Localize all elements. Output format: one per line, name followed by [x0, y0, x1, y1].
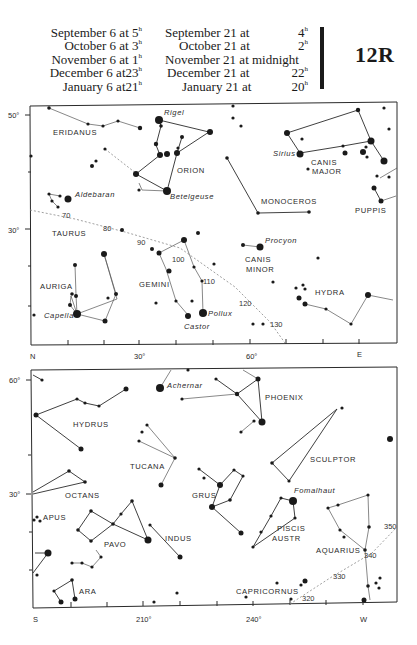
apus: APUS: [32, 513, 66, 523]
indus: INDUS: [148, 523, 191, 559]
ra-label-60: 60°: [246, 352, 257, 361]
dec-label-30: 30°: [8, 226, 19, 235]
south-label: S: [33, 615, 38, 624]
constellation-label: HYDRUS: [73, 420, 109, 429]
star-charts: 50° 30° N 30° 60° E 70 80 90 100 110 120…: [0, 0, 417, 645]
constellation-label: TAURUS: [52, 229, 86, 238]
ra-label-210: 210°: [136, 615, 152, 624]
star-label-pollux: Pollux: [208, 309, 233, 318]
ra-label-30: 30°: [134, 352, 145, 361]
north-label: N: [30, 352, 35, 361]
canis-major: Sirius CANIS MAJOR: [273, 106, 391, 176]
ecliptic-mark: 330: [333, 572, 346, 581]
constellation-label: AUSTR: [272, 534, 301, 543]
star-label-betelgeuse: Betelgeuse: [170, 192, 214, 201]
ecliptic-mark: 110: [203, 277, 215, 286]
ecliptic-mark: 70: [62, 211, 70, 220]
constellation-label: ORION: [177, 166, 205, 175]
constellation-label: TUCANA: [130, 462, 165, 471]
dec-label-30: 30°: [9, 490, 20, 499]
constellation-label: CAPRICORNUS: [236, 587, 299, 596]
constellation-label: CANIS: [245, 255, 271, 264]
auriga: AURIGA Capella: [32, 251, 118, 324]
constellation-label: MINOR: [246, 265, 274, 274]
ecliptic-mark: 80: [103, 224, 111, 233]
ecliptic-mark: 130: [270, 320, 283, 329]
ra-label-240: 240°: [246, 615, 262, 624]
phoenix: Achernar PHOENIX: [156, 368, 303, 433]
constellation-label: MAJOR: [312, 167, 342, 176]
grus: GRUS: [192, 467, 245, 535]
star-label-castor: Castor: [184, 322, 210, 331]
orion: Rigel ORION Betelgeuse: [133, 108, 214, 201]
constellation-label: GRUS: [192, 491, 216, 500]
constellation-label: GEMINI: [139, 280, 170, 289]
canis-minor: Procyon CANIS MINOR: [241, 236, 297, 326]
octans: OCTANS: [33, 469, 100, 500]
constellation-label: AQUARIUS: [316, 546, 360, 555]
south-star-chart: 60° 30° S 210° 240° W 320 330 340 350 HY…: [9, 367, 397, 624]
ara: ARA: [52, 578, 178, 604]
ecliptic-mark: 320: [302, 594, 315, 603]
star-label-sirius: Sirius: [273, 149, 296, 158]
star-label-aldebaran: Aldebaran: [74, 190, 115, 199]
capricornus: CAPRICORNUS: [236, 579, 308, 601]
constellation-label: HYDRA: [315, 288, 345, 297]
ecliptic-mark: 120: [239, 299, 252, 308]
ecliptic-line: [290, 527, 397, 604]
constellation-label: CANIS: [311, 158, 337, 167]
dec-label-60: 60°: [9, 376, 20, 385]
aquarius: AQUARIUS: [316, 493, 382, 602]
constellation-label: ARA: [79, 587, 97, 596]
constellation-label: PUPPIS: [355, 206, 386, 215]
constellation-label: PAVO: [104, 540, 126, 549]
sculptor: SCULPTOR: [270, 406, 393, 482]
north-star-chart: 50° 30° N 30° 60° E 70 80 90 100 110 120…: [8, 102, 397, 361]
constellation-label: SCULPTOR: [310, 455, 356, 464]
hydra: HYDRA: [294, 256, 393, 325]
constellation-label: INDUS: [165, 534, 192, 543]
star-label-capella: Capella: [44, 311, 74, 320]
west-label: W: [360, 615, 368, 624]
star-label-fomalhaut: Fomalhaut: [294, 486, 336, 495]
constellation-label: ERIDANUS: [53, 128, 97, 137]
dec-label-50: 50°: [8, 111, 19, 120]
constellation-label: AURIGA: [40, 282, 73, 291]
piscis-austrinus: Fomalhaut PISCIS AUSTR: [251, 486, 335, 549]
ecliptic-mark: 90: [137, 238, 145, 247]
constellation-label: OCTANS: [65, 491, 100, 500]
east-label: E: [357, 350, 362, 359]
star-label-procyon: Procyon: [265, 236, 297, 245]
ecliptic-mark: 100: [172, 255, 185, 264]
constellation-label: PHOENIX: [265, 393, 303, 402]
constellation-label: PISCIS: [277, 524, 306, 533]
taurus: Aldebaran TAURUS: [47, 190, 124, 238]
constellation-label: MONOCEROS: [261, 197, 317, 206]
star-label-rigel: Rigel: [164, 108, 184, 117]
pavo: PAVO: [33, 499, 152, 576]
star-label-achernar: Achernar: [166, 381, 203, 390]
gemini: GEMINI Castor Pollux: [139, 231, 233, 331]
hydrus: HYDRUS: [33, 375, 129, 452]
monoceros: MONOCEROS: [225, 156, 317, 215]
puppis: PUPPIS: [355, 168, 397, 215]
ecliptic-mark: 350: [384, 522, 397, 531]
tucana: TUCANA: [130, 423, 177, 487]
constellation-label: APUS: [43, 513, 66, 522]
eridanus: ERIDANUS: [29, 106, 142, 174]
